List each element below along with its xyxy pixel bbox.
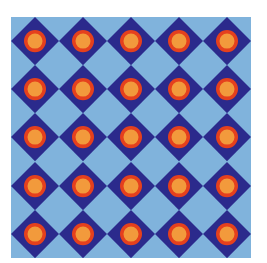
inner-circle xyxy=(220,34,235,49)
tile xyxy=(203,17,251,65)
inner-circle xyxy=(76,130,91,145)
tile xyxy=(11,210,59,258)
inner-circle xyxy=(28,82,43,97)
tile xyxy=(155,113,203,161)
inner-circle xyxy=(220,178,235,193)
inner-circle xyxy=(172,130,187,145)
inner-circle xyxy=(76,82,91,97)
tile xyxy=(107,210,155,258)
tile xyxy=(155,65,203,113)
tile-pattern xyxy=(11,17,251,258)
tile xyxy=(203,210,251,258)
inner-circle xyxy=(124,82,139,97)
inner-circle xyxy=(220,130,235,145)
inner-circle xyxy=(220,226,235,241)
inner-circle xyxy=(28,226,43,241)
inner-circle xyxy=(124,130,139,145)
tile xyxy=(203,162,251,210)
tile xyxy=(107,113,155,161)
inner-circle xyxy=(172,34,187,49)
tile xyxy=(11,113,59,161)
inner-circle xyxy=(220,82,235,97)
inner-circle xyxy=(172,178,187,193)
tile xyxy=(203,113,251,161)
tile xyxy=(59,65,107,113)
inner-circle xyxy=(28,130,43,145)
tile xyxy=(11,162,59,210)
tile xyxy=(107,17,155,65)
tile xyxy=(59,210,107,258)
inner-circle xyxy=(76,226,91,241)
inner-circle xyxy=(28,34,43,49)
tile xyxy=(155,162,203,210)
inner-circle xyxy=(76,34,91,49)
tile xyxy=(59,162,107,210)
inner-circle xyxy=(124,226,139,241)
tile xyxy=(155,17,203,65)
tile xyxy=(203,65,251,113)
tile xyxy=(59,113,107,161)
tile xyxy=(59,17,107,65)
inner-circle xyxy=(76,178,91,193)
tile xyxy=(11,17,59,65)
inner-circle xyxy=(124,178,139,193)
tile xyxy=(155,210,203,258)
inner-circle xyxy=(124,34,139,49)
tile xyxy=(107,162,155,210)
inner-circle xyxy=(172,226,187,241)
tile xyxy=(11,65,59,113)
inner-circle xyxy=(172,82,187,97)
inner-circle xyxy=(28,178,43,193)
tile xyxy=(107,65,155,113)
